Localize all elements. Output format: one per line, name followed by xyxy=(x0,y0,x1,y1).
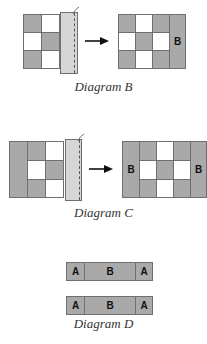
block-cell xyxy=(173,141,191,161)
strip-label-b: B xyxy=(190,141,207,198)
folded-strip xyxy=(60,12,78,74)
block-cell xyxy=(41,32,60,51)
block-cell xyxy=(118,14,136,33)
block-cell xyxy=(135,50,153,69)
strip-b xyxy=(9,141,28,198)
thread-icon xyxy=(77,133,85,142)
right-arrow-icon xyxy=(88,164,114,174)
right-arrow-icon xyxy=(84,36,110,46)
block-cell xyxy=(23,32,42,51)
caption-diagram-c: Diagram C xyxy=(0,205,207,221)
block-cell xyxy=(23,14,42,33)
caption-diagram-b: Diagram B xyxy=(0,79,207,95)
strip-label-b: B xyxy=(169,14,186,69)
block-cell xyxy=(152,32,170,51)
block-cell xyxy=(45,141,64,161)
block-cell xyxy=(45,160,64,180)
seam-line xyxy=(74,13,75,73)
seam-line xyxy=(79,140,80,200)
block-cell xyxy=(139,179,157,198)
block-cell xyxy=(156,141,174,161)
block-cell xyxy=(152,14,170,33)
block-cell xyxy=(118,50,136,69)
block-cell xyxy=(152,50,170,69)
block-cell xyxy=(27,141,46,161)
block-cell xyxy=(41,14,60,33)
strip-label-b: B xyxy=(122,141,140,198)
block-cell xyxy=(118,32,136,51)
block-cell xyxy=(27,160,46,180)
strip-label-a: A xyxy=(66,262,85,281)
block-cell xyxy=(41,50,60,69)
block-cell xyxy=(135,32,153,51)
block-cell xyxy=(139,141,157,161)
block-cell xyxy=(156,160,174,180)
block-cell xyxy=(135,14,153,33)
strip-label-b: B xyxy=(84,296,136,315)
block-cell xyxy=(173,160,191,180)
block-cell xyxy=(23,50,42,69)
strip-label-a: A xyxy=(135,296,153,315)
strip-label-b: B xyxy=(84,262,136,281)
thread-icon xyxy=(72,6,80,15)
block-cell xyxy=(45,179,64,198)
block-cell xyxy=(27,179,46,198)
block-cell xyxy=(156,179,174,198)
block-cell xyxy=(139,160,157,180)
strip-label-a: A xyxy=(135,262,153,281)
caption-diagram-d: Diagram D xyxy=(0,316,207,332)
strip-label-a: A xyxy=(66,296,85,315)
block-cell xyxy=(173,179,191,198)
